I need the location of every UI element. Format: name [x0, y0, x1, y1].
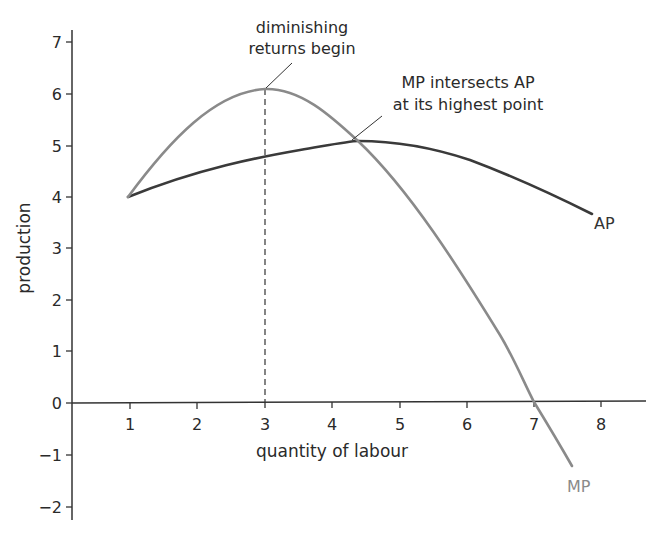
x-axis — [72, 401, 646, 409]
annotation-mp-intersects-ap: MP intersects AP at its highest point — [352, 73, 543, 140]
annotation-1-leader — [266, 63, 292, 88]
x-tick-6: 6 — [462, 415, 472, 434]
y-tick-5: 5 — [52, 137, 62, 156]
x-tick-labels: 1 2 3 4 5 6 7 8 — [125, 415, 606, 434]
y-axis-title: production — [14, 202, 34, 293]
x-tick-5: 5 — [395, 415, 405, 434]
y-tick-neg2: −2 — [38, 498, 62, 517]
x-tick-7: 7 — [529, 415, 539, 434]
x-tick-8: 8 — [596, 415, 606, 434]
x-tick-2: 2 — [192, 415, 202, 434]
y-tick-0: 0 — [52, 394, 62, 413]
annotation-1-line-1: diminishing — [256, 18, 348, 37]
ap-curve-label: AP — [594, 214, 615, 233]
y-tick-6: 6 — [52, 85, 62, 104]
x-tick-4: 4 — [327, 415, 337, 434]
y-tick-3: 3 — [52, 239, 62, 258]
y-tick-neg1: −1 — [38, 446, 62, 465]
mp-curve-label: MP — [567, 477, 591, 496]
annotation-2-line-2: at its highest point — [393, 95, 544, 114]
x-tick-1: 1 — [125, 415, 135, 434]
y-tick-7: 7 — [52, 33, 62, 52]
y-tick-1: 1 — [52, 342, 62, 361]
annotation-2-line-1: MP intersects AP — [401, 73, 534, 92]
ap-curve — [128, 141, 592, 214]
y-tick-2: 2 — [52, 291, 62, 310]
annotation-diminishing-returns: diminishing returns begin — [248, 18, 355, 88]
y-tick-4: 4 — [52, 188, 62, 207]
x-tick-3: 3 — [260, 415, 270, 434]
x-axis-title: quantity of labour — [256, 441, 408, 461]
production-chart: 7 6 5 4 3 2 1 0 −1 −2 1 2 3 4 5 — [0, 0, 658, 544]
y-axis — [66, 30, 72, 520]
mp-curve — [128, 89, 572, 466]
y-tick-labels: 7 6 5 4 3 2 1 0 −1 −2 — [38, 33, 62, 517]
annotation-1-line-2: returns begin — [248, 39, 355, 58]
annotation-2-leader — [352, 116, 382, 140]
